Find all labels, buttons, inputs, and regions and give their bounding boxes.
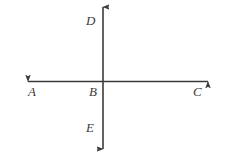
point-label-e: E xyxy=(86,121,94,134)
point-label-d: D xyxy=(86,14,95,27)
point-label-b: B xyxy=(89,85,97,98)
geometry-figure: D A B C E xyxy=(0,0,225,162)
point-label-a: A xyxy=(28,85,36,98)
point-label-c: C xyxy=(193,85,202,98)
figure-canvas xyxy=(0,0,225,162)
